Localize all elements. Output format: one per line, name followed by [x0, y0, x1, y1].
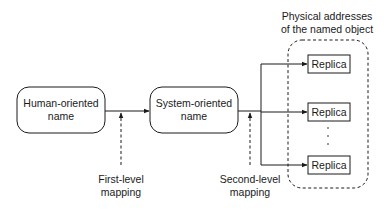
svg-text:Replica: Replica — [311, 58, 346, 70]
svg-text:mapping: mapping — [101, 186, 141, 198]
svg-text:name: name — [48, 110, 74, 122]
naming-diagram: Physical addresses of the named object H… — [0, 0, 386, 213]
vertical-ellipsis — [327, 127, 329, 145]
svg-text:name: name — [181, 110, 207, 122]
first-level-mapping-label: First-level mapping — [98, 173, 144, 198]
svg-text:Replica: Replica — [311, 159, 346, 171]
svg-text:First-level: First-level — [98, 173, 144, 185]
replica-box: Replica — [308, 55, 350, 73]
physical-addresses-title: Physical addresses of the named object — [281, 10, 373, 35]
replica-box: Replica — [308, 103, 350, 121]
svg-text:mapping: mapping — [230, 186, 270, 198]
system-oriented-name-node: System-oriented name — [150, 87, 238, 133]
human-oriented-name-node: Human-oriented name — [17, 87, 105, 133]
svg-text:Second-level: Second-level — [220, 173, 281, 185]
svg-text:of the named object: of the named object — [281, 23, 373, 35]
svg-text:Human-oriented: Human-oriented — [23, 97, 98, 109]
replica-box: Replica — [308, 156, 350, 174]
svg-text:Replica: Replica — [311, 106, 346, 118]
svg-text:System-oriented: System-oriented — [156, 97, 233, 109]
svg-text:Physical addresses: Physical addresses — [282, 10, 372, 22]
fan-out-connectors — [238, 64, 307, 165]
second-level-mapping-label: Second-level mapping — [220, 173, 281, 198]
